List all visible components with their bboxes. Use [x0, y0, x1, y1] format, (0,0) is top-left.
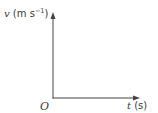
y-axis-unit-close: )	[44, 8, 48, 19]
y-axis-unit-open: (m s	[10, 8, 35, 19]
velocity-time-diagram: v (m s−1) O t (s)	[0, 0, 158, 113]
x-axis-unit: (s)	[131, 100, 147, 111]
y-axis-arrowhead-icon	[51, 12, 56, 19]
y-axis-label: v (m s−1)	[4, 8, 48, 19]
origin-label: O	[40, 101, 49, 112]
x-axis-label: t (s)	[127, 101, 147, 111]
